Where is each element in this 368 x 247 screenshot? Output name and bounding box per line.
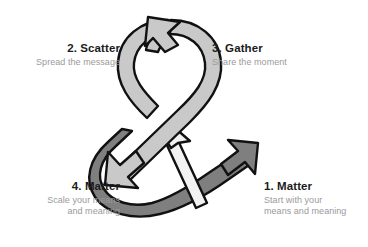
step-1-subtitle-line-2: means and meaning <box>264 206 368 217</box>
step-label-1: 1. Matter Start with your means and mean… <box>264 180 368 216</box>
step-4-title: 4. Matter <box>6 180 120 194</box>
step-1-subtitle-line-1: Start with your <box>264 195 368 206</box>
step-1-title: 1. Matter <box>264 180 368 194</box>
step-3-title: 3. Gather <box>212 42 332 56</box>
step-label-2: 2. Scatter Spread the message <box>8 42 120 68</box>
step-3-subtitle-line-1: Share the moment <box>212 57 332 68</box>
step-4-subtitle-line-1: Scale your means <box>6 195 120 206</box>
step-4-subtitle-line-2: and meaning <box>6 206 120 217</box>
light-ribbon-group <box>105 17 221 188</box>
step-label-3: 3. Gather Share the moment <box>212 42 332 68</box>
diagram-canvas: 2. Scatter Spread the message 3. Gather … <box>0 0 368 247</box>
step-label-4: 4. Matter Scale your means and meaning <box>6 180 120 216</box>
step-2-subtitle-line-1: Spread the message <box>8 57 120 68</box>
step-2-title: 2. Scatter <box>8 42 120 56</box>
